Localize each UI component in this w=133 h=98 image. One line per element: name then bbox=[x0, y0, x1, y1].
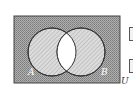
set-a-label: A bbox=[27, 67, 35, 77]
universal-label: U bbox=[121, 76, 129, 86]
set-b-label: B bbox=[100, 67, 108, 77]
side-marker-1 bbox=[129, 27, 133, 41]
side-marker-2 bbox=[129, 59, 133, 73]
venn-diagram: A B U bbox=[0, 0, 133, 98]
